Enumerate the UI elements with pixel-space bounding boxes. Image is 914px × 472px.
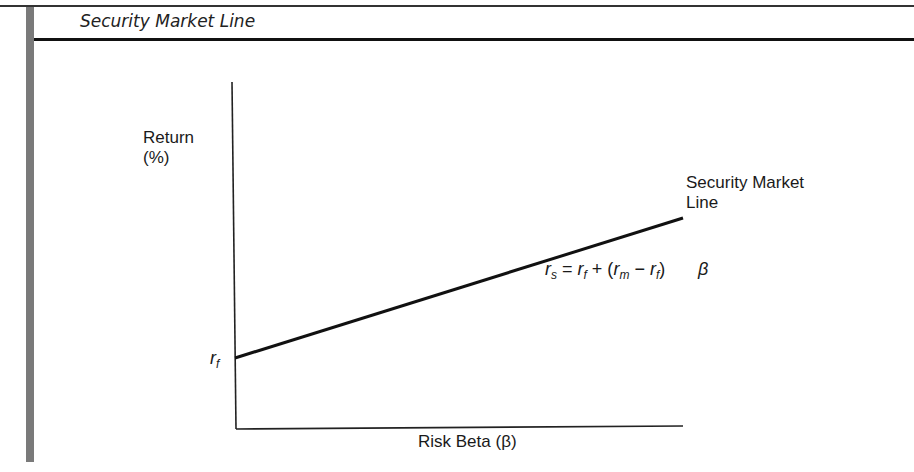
x-axis xyxy=(236,426,683,429)
y-axis-label-line1: Return xyxy=(143,128,194,148)
series-label: Security Market Line xyxy=(686,173,804,213)
y-axis xyxy=(232,82,236,429)
security-market-line xyxy=(235,218,683,358)
y-intercept-label: rf xyxy=(210,348,219,371)
series-label-line1: Security Market xyxy=(686,173,804,193)
series-label-line2: Line xyxy=(686,193,804,213)
chart-plot xyxy=(0,0,914,472)
x-axis-label: Risk Beta (β) xyxy=(418,432,517,452)
y-axis-label: Return (%) xyxy=(143,128,194,168)
sml-formula: rs = rf + (rm − rf) xyxy=(545,259,665,282)
y-axis-label-line2: (%) xyxy=(143,148,194,168)
beta-symbol: β xyxy=(698,259,708,280)
